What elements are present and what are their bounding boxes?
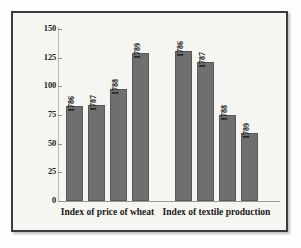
y-tick-label: 150 (44, 23, 56, 33)
y-tick-mark (58, 58, 62, 59)
bar-1-1788[interactable]: 1788 (110, 89, 127, 201)
bar-2-1788[interactable]: 1788 (219, 115, 236, 201)
y-tick-25: 25 (13, 172, 65, 173)
plot-area: 1501251007550250 17861787178817891786178… (13, 13, 286, 230)
bar-2-1787[interactable]: 1787 (197, 62, 214, 201)
y-tick-label: 50 (48, 138, 56, 148)
bar-1-1787[interactable]: 1787 (88, 105, 105, 201)
bar-label: 1786 (67, 96, 76, 112)
bar-label: 1788 (111, 79, 120, 95)
y-tick-50: 50 (13, 144, 65, 145)
bar-label: 1788 (220, 105, 229, 121)
y-tick-100: 100 (13, 86, 65, 87)
bar-2-1789[interactable]: 1789 (241, 133, 258, 201)
y-tick-mark (58, 144, 62, 145)
category-caption-wheat: Index of price of wheat (61, 207, 154, 217)
bar-label: 1787 (89, 95, 98, 111)
chart-frame: 1501251007550250 17861787178817891786178… (11, 11, 288, 232)
y-tick-label: 100 (44, 80, 56, 90)
bar-label: 1789 (242, 123, 251, 139)
y-tick-mark (58, 172, 62, 173)
y-tick-mark (58, 115, 62, 116)
y-tick-75: 75 (13, 115, 65, 116)
bar-1-1786[interactable]: 1786 (66, 106, 83, 201)
y-tick-label: 75 (48, 109, 56, 119)
y-tick-mark (58, 86, 62, 87)
bar-label: 1786 (176, 41, 185, 57)
y-tick-label: 0 (52, 195, 56, 205)
y-tick-0: 0 (13, 201, 65, 202)
y-tick-label: 125 (44, 52, 56, 62)
bar-2-1786[interactable]: 1786 (175, 51, 192, 201)
y-tick-mark (58, 201, 62, 202)
category-caption-textile: Index of textile production (163, 207, 271, 217)
bar-1-1789[interactable]: 1789 (132, 53, 149, 201)
y-tick-125: 125 (13, 58, 65, 59)
bar-label: 1789 (133, 43, 142, 59)
y-tick-label: 25 (48, 166, 56, 176)
y-tick-150: 150 (13, 29, 65, 30)
chart-page: 1501251007550250 17861787178817891786178… (0, 0, 301, 248)
x-axis-line (58, 201, 280, 202)
y-tick-mark (58, 29, 62, 30)
bar-label: 1787 (198, 52, 207, 68)
